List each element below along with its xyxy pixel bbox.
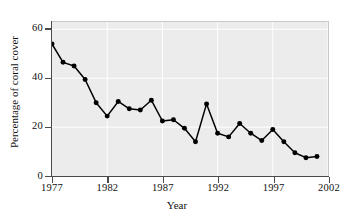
y-tick-0 bbox=[45, 176, 52, 177]
x-tick-label-1987: 1987 bbox=[138, 183, 188, 194]
y-axis-line bbox=[51, 21, 52, 177]
coral-cover-series bbox=[52, 22, 328, 176]
x-tick-label-1982: 1982 bbox=[82, 183, 132, 194]
y-tick-label-40: 40 bbox=[32, 72, 43, 83]
y-tick-40 bbox=[45, 78, 52, 79]
y-tick-20 bbox=[45, 127, 52, 128]
x-axis-title: Year bbox=[0, 199, 354, 211]
x-tick-label-1977: 1977 bbox=[27, 183, 77, 194]
x-tick-label-2002: 2002 bbox=[304, 183, 354, 194]
y-tick-label-60: 60 bbox=[32, 23, 43, 34]
y-tick-60 bbox=[45, 28, 52, 29]
y-axis-title: Percentage of coral cover bbox=[8, 12, 20, 172]
x-tick-label-1992: 1992 bbox=[193, 183, 243, 194]
plot-area bbox=[52, 21, 329, 176]
x-axis-line bbox=[51, 176, 329, 177]
chart-figure: 0204060 197719821987199219972002 Year Pe… bbox=[0, 0, 354, 223]
y-tick-label-20: 20 bbox=[32, 121, 43, 132]
x-tick-label-1997: 1997 bbox=[249, 183, 299, 194]
y-tick-label-0: 0 bbox=[38, 171, 43, 182]
